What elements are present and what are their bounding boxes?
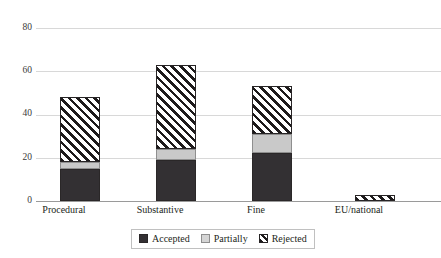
bar-segment-accepted[interactable] [60, 169, 100, 201]
stacked-bar-chart: 80 60 40 20 0 [0, 0, 441, 258]
y-tick-label-80: 80 [4, 23, 32, 33]
y-tick-label-40: 40 [4, 109, 32, 119]
bar-segment-rejected[interactable] [156, 65, 196, 149]
bar-group-substantive[interactable] [156, 28, 196, 201]
bar-segment-accepted[interactable] [156, 160, 196, 201]
x-label-fine: Fine [212, 204, 300, 215]
legend-label-rejected: Rejected [272, 234, 307, 244]
bar-segment-rejected[interactable] [355, 195, 395, 202]
x-label-eu-national: EU/national [311, 204, 407, 215]
legend-item-rejected[interactable]: Rejected [259, 234, 307, 244]
bar-segment-rejected[interactable] [60, 97, 100, 162]
axis-baseline-zero [36, 201, 441, 202]
bar-group-procedural[interactable] [60, 28, 100, 201]
bar-group-fine[interactable] [252, 28, 292, 201]
legend: Accepted Partially Rejected [131, 229, 315, 249]
bar-segment-partially[interactable] [252, 134, 292, 154]
legend-label-partially: Partially [214, 234, 248, 244]
solid-gray-square-icon [201, 234, 210, 243]
diagonal-hatch-square-icon [259, 234, 268, 243]
solid-dark-square-icon [139, 234, 148, 243]
bar-group-eu-national[interactable] [355, 28, 395, 201]
bar-segment-accepted[interactable] [252, 153, 292, 201]
bar-segment-rejected[interactable] [252, 86, 292, 134]
plot-area [36, 28, 441, 201]
x-label-procedural: Procedural [20, 204, 108, 215]
legend-item-accepted[interactable]: Accepted [139, 234, 190, 244]
legend-label-accepted: Accepted [152, 234, 190, 244]
legend-item-partially[interactable]: Partially [201, 234, 248, 244]
bar-segment-partially[interactable] [156, 149, 196, 160]
bar-segment-partially[interactable] [60, 162, 100, 169]
x-label-substantive: Substantive [116, 204, 204, 215]
y-tick-label-20: 20 [4, 153, 32, 163]
y-tick-label-60: 60 [4, 66, 32, 76]
